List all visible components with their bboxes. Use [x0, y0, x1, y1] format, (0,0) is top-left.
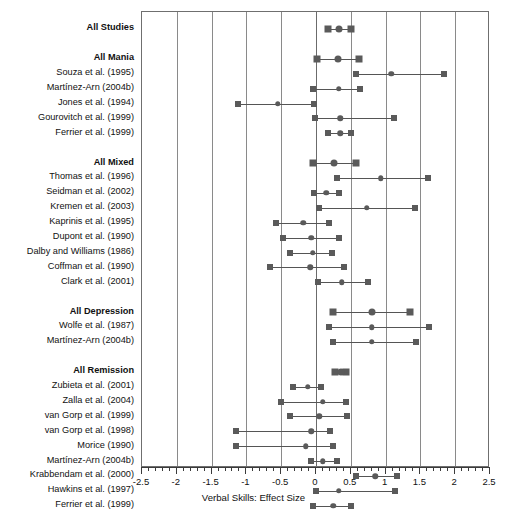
ci-high-marker	[318, 384, 324, 390]
plot-area	[141, 11, 489, 467]
x-axis-title: Verbal Skills: Effect Size	[0, 492, 507, 503]
point-estimate-marker	[331, 503, 337, 509]
study-label: van Gorp et al. (1999)	[45, 410, 134, 420]
point-estimate-marker	[369, 339, 375, 345]
minor-tick	[287, 467, 288, 471]
x-tick-label: 0	[312, 476, 317, 487]
point-estimate-marker	[320, 458, 326, 464]
ci-high-marker	[343, 399, 349, 405]
ci-low-marker	[325, 130, 331, 136]
point-estimate-marker	[336, 86, 342, 92]
study-label: Dalby and Williams (1986)	[27, 246, 134, 256]
ci-low-marker	[311, 190, 317, 196]
group-label: All Remission	[73, 365, 134, 375]
point-estimate-marker	[308, 429, 314, 435]
point-estimate-marker	[317, 414, 323, 420]
ci-low-marker	[330, 309, 337, 316]
ci-low-marker	[280, 235, 286, 241]
minor-tick	[266, 467, 267, 471]
ci-high-marker	[334, 458, 340, 464]
ci-high-marker	[344, 413, 350, 419]
study-label: Zubieta et al. (2001)	[52, 380, 134, 390]
gridline	[177, 12, 178, 466]
minor-tick	[329, 467, 330, 471]
point-estimate-marker	[308, 265, 314, 271]
ci-low-marker	[330, 339, 336, 345]
minor-tick	[259, 467, 260, 471]
ci-high-marker	[336, 190, 342, 196]
point-estimate-marker	[369, 324, 375, 330]
major-tick	[245, 467, 246, 474]
group-label: All Studies	[87, 22, 134, 32]
ci-high-marker	[347, 26, 354, 33]
point-estimate-marker	[324, 190, 330, 196]
minor-tick	[378, 467, 379, 471]
confidence-interval-line	[236, 446, 333, 447]
ci-low-marker	[273, 220, 279, 226]
minor-tick	[148, 467, 149, 471]
minor-tick	[204, 467, 205, 471]
point-estimate-marker	[338, 131, 344, 137]
ci-low-marker	[267, 264, 273, 270]
study-label: Gourovitch et al. (1999)	[38, 112, 134, 122]
ci-high-marker	[311, 101, 317, 107]
confidence-interval-line	[236, 431, 330, 432]
minor-tick	[155, 467, 156, 471]
group-label: All Depression	[70, 306, 134, 316]
study-label: Dupont et al. (1990)	[53, 231, 134, 241]
confidence-interval-line	[281, 402, 346, 403]
study-label: Kaprinis et al. (1995)	[49, 216, 134, 226]
study-label: Morice (1990)	[77, 440, 134, 450]
point-estimate-marker	[338, 368, 345, 375]
point-estimate-marker	[335, 55, 342, 62]
ci-low-marker	[310, 86, 316, 92]
study-label: Zalla et al. (2004)	[63, 395, 135, 405]
ci-low-marker	[278, 399, 284, 405]
ci-high-marker	[348, 503, 354, 509]
forest-plot: All StudiesAll ManiaSouza et al. (1995)M…	[0, 0, 507, 511]
minor-tick	[294, 467, 295, 471]
minor-tick	[392, 467, 393, 471]
ci-high-marker	[327, 428, 333, 434]
ci-high-marker	[341, 264, 347, 270]
major-tick	[211, 467, 212, 474]
major-tick	[141, 467, 142, 474]
ci-low-marker	[353, 71, 359, 77]
ci-high-marker	[336, 235, 342, 241]
minor-tick	[433, 467, 434, 471]
study-label: Martínez-Arn (2004b)	[47, 82, 134, 92]
ci-high-marker	[406, 309, 413, 316]
x-tick-label: -2	[172, 476, 180, 487]
point-estimate-marker	[308, 235, 314, 241]
point-estimate-marker	[388, 71, 394, 77]
minor-tick	[252, 467, 253, 471]
study-label: Wolfe et al. (1987)	[59, 320, 134, 330]
ci-low-marker	[287, 250, 293, 256]
ci-low-marker	[315, 279, 321, 285]
minor-tick	[336, 467, 337, 471]
ci-high-marker	[352, 160, 359, 167]
study-label: Jones et al. (1994)	[58, 97, 134, 107]
minor-tick	[183, 467, 184, 471]
ci-low-marker	[334, 175, 340, 181]
point-estimate-marker	[338, 116, 344, 122]
major-tick	[315, 467, 316, 474]
ci-low-marker	[310, 160, 317, 167]
ci-high-marker	[426, 324, 432, 330]
ci-high-marker	[330, 443, 336, 449]
gridline	[212, 12, 213, 466]
x-tick-label: -1.5	[202, 476, 218, 487]
minor-tick	[405, 467, 406, 471]
study-label: Martínez-Arn (2004b)	[47, 335, 134, 345]
ci-low-marker	[310, 503, 316, 509]
study-label: Kremen et al. (2003)	[50, 201, 134, 211]
ci-low-marker	[290, 384, 296, 390]
ci-low-marker	[233, 428, 239, 434]
point-estimate-marker	[378, 175, 384, 181]
major-tick	[419, 467, 420, 474]
x-tick-label: 0.5	[343, 476, 356, 487]
minor-tick	[475, 467, 476, 471]
study-label: Ferrier et al. (1999)	[55, 127, 134, 137]
study-label: Seidman et al. (2002)	[46, 186, 134, 196]
group-label: All Mixed	[94, 157, 134, 167]
